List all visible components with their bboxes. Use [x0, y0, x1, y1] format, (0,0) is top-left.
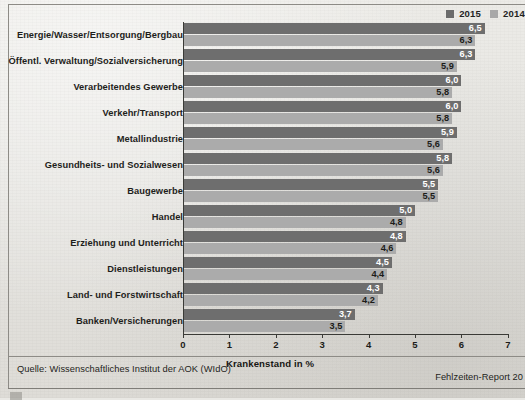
bar-2014[interactable]: 3,5: [183, 321, 345, 332]
x-tick: [508, 334, 509, 338]
legend-swatch-2015: [446, 10, 454, 18]
y-axis-line: [183, 22, 184, 334]
bar-pair: 5,55,5: [183, 179, 438, 202]
bar-pair: 4,34,2: [183, 283, 383, 306]
x-tick-label: 7: [505, 339, 510, 350]
bar-pair: 4,84,6: [183, 231, 406, 254]
bar-value-label: 6,3: [460, 50, 473, 59]
bar-pair: 6,56,3: [183, 23, 485, 46]
bar-group: Energie/Wasser/Entsorgung/Bergbau6,56,3: [0, 22, 525, 48]
bar-2015[interactable]: 3,7: [183, 309, 355, 320]
figure-frame-bottom: [8, 388, 525, 389]
x-tick: [369, 334, 370, 338]
bar-group: Öffentl. Verwaltung/Sozialversicherung6,…: [0, 48, 525, 74]
chart-legend: 2015 2014: [446, 8, 525, 19]
x-tick: [322, 334, 323, 338]
x-tick-label: 0: [180, 339, 185, 350]
category-label: Metallindustrie: [117, 126, 183, 152]
bar-value-label: 5,8: [436, 154, 449, 163]
category-label: Erziehung und Unterricht: [70, 230, 183, 256]
bar-value-label: 6,0: [446, 76, 459, 85]
bar-group: Erziehung und Unterricht4,84,6: [0, 230, 525, 256]
bar-2014[interactable]: 6,3: [183, 35, 475, 46]
legend-item-2014: 2014: [490, 8, 525, 19]
bar-value-label: 4,2: [362, 296, 375, 305]
bar-value-label: 4,4: [371, 270, 384, 279]
bar-pair: 4,54,4: [183, 257, 392, 280]
x-axis-line: [183, 334, 508, 335]
legend-item-2015: 2015: [446, 8, 481, 19]
x-tick-label: 6: [459, 339, 464, 350]
bar-pair: 6,35,9: [183, 49, 475, 72]
bar-value-label: 5,5: [422, 192, 435, 201]
category-label: Verarbeitendes Gewerbe: [73, 74, 183, 100]
bar-group: Handel5,04,8: [0, 204, 525, 230]
bar-2014[interactable]: 5,6: [183, 165, 443, 176]
category-label: Gesundheits- und Sozialwesen: [45, 152, 183, 178]
bar-2015[interactable]: 6,0: [183, 75, 461, 86]
bar-2015[interactable]: 5,5: [183, 179, 438, 190]
figure-frame-left-lower: [8, 356, 9, 388]
bar-value-label: 3,5: [330, 322, 343, 331]
bar-2015[interactable]: 5,8: [183, 153, 452, 164]
bar-2014[interactable]: 5,8: [183, 113, 452, 124]
legend-swatch-2014: [490, 10, 498, 18]
bar-group: Banken/Versicherungen3,73,5: [0, 308, 525, 334]
bar-value-label: 5,9: [441, 62, 454, 71]
bar-2014[interactable]: 5,5: [183, 191, 438, 202]
bar-value-label: 5,6: [427, 140, 440, 149]
bar-2015[interactable]: 4,8: [183, 231, 406, 242]
bar-2015[interactable]: 4,5: [183, 257, 392, 268]
bar-2014[interactable]: 5,8: [183, 87, 452, 98]
bar-2014[interactable]: 4,2: [183, 295, 378, 306]
bar-pair: 5,85,6: [183, 153, 452, 176]
bar-2015[interactable]: 4,3: [183, 283, 383, 294]
x-tick-label: 1: [227, 339, 232, 350]
x-tick: [183, 334, 184, 338]
bar-value-label: 5,0: [399, 206, 412, 215]
figure-frame-top: [8, 4, 525, 5]
bar-2014[interactable]: 4,6: [183, 243, 396, 254]
bar-value-label: 4,6: [381, 244, 394, 253]
category-label: Energie/Wasser/Entsorgung/Bergbau: [17, 22, 183, 48]
bar-pair: 6,05,8: [183, 75, 461, 98]
bar-2015[interactable]: 5,9: [183, 127, 457, 138]
bar-chart-plot-area: Energie/Wasser/Entsorgung/Bergbau6,56,3Ö…: [0, 22, 525, 334]
bar-2014[interactable]: 4,8: [183, 217, 406, 228]
x-tick: [415, 334, 416, 338]
bar-pair: 5,04,8: [183, 205, 415, 228]
bar-2015[interactable]: 5,0: [183, 205, 415, 216]
category-label: Dienstleistungen: [107, 256, 183, 282]
bar-group: Land- und Forstwirtschaft4,34,2: [0, 282, 525, 308]
bar-value-label: 3,7: [339, 310, 352, 319]
bar-2015[interactable]: 6,5: [183, 23, 485, 34]
source-note: Quelle: Wissenschaftliches Institut der …: [17, 364, 231, 374]
bar-pair: 6,05,8: [183, 101, 461, 124]
bar-value-label: 6,0: [446, 102, 459, 111]
bar-pair: 5,95,6: [183, 127, 457, 150]
bar-group: Metallindustrie5,95,6: [0, 126, 525, 152]
x-tick: [229, 334, 230, 338]
figure-frame-divider: [8, 356, 525, 357]
bar-group: Verarbeitendes Gewerbe6,05,8: [0, 74, 525, 100]
category-label: Öffentl. Verwaltung/Sozialversicherung: [9, 48, 183, 74]
x-tick-label: 2: [273, 339, 278, 350]
category-label: Land- und Forstwirtschaft: [67, 282, 183, 308]
bar-value-label: 5,8: [436, 88, 449, 97]
bar-value-label: 4,8: [390, 232, 403, 241]
category-label: Handel: [152, 204, 183, 230]
category-label: Verkehr/Transport: [103, 100, 183, 126]
bar-group: Verkehr/Transport6,05,8: [0, 100, 525, 126]
bar-value-label: 6,5: [469, 24, 482, 33]
x-tick: [461, 334, 462, 338]
bar-2014[interactable]: 5,6: [183, 139, 443, 150]
x-tick-label: 5: [412, 339, 417, 350]
bar-value-label: 5,9: [441, 128, 454, 137]
bar-2014[interactable]: 5,9: [183, 61, 457, 72]
category-label: Banken/Versicherungen: [76, 308, 183, 334]
bar-2015[interactable]: 6,3: [183, 49, 475, 60]
x-tick-label: 4: [366, 339, 371, 350]
bar-2014[interactable]: 4,4: [183, 269, 387, 280]
bar-2015[interactable]: 6,0: [183, 101, 461, 112]
bar-value-label: 6,3: [460, 36, 473, 45]
